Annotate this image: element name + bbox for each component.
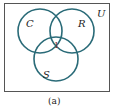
- caption: (a): [48, 96, 60, 106]
- universe-label: U: [97, 8, 106, 19]
- set-c-label: C: [26, 18, 34, 29]
- set-s-label: S: [43, 69, 50, 80]
- venn-diagram: U C R S 1 (a): [0, 0, 114, 108]
- set-r-label: R: [77, 18, 86, 29]
- region-crs-label: 1: [54, 41, 59, 50]
